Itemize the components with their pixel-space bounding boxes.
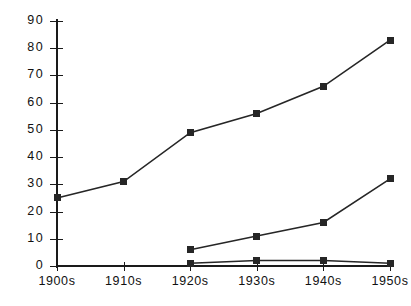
marker-series-3-1930s bbox=[253, 257, 260, 264]
marker-series-2-1950s bbox=[387, 175, 394, 182]
marker-series-3-1950s bbox=[387, 260, 394, 267]
marker-series-1-1940s bbox=[320, 83, 327, 90]
marker-series-2-1920s bbox=[187, 246, 194, 253]
marker-series-1-1920s bbox=[187, 129, 194, 136]
marker-series-3-1940s bbox=[320, 257, 327, 264]
figure-caption bbox=[22, 297, 394, 306]
data-lines bbox=[0, 0, 411, 306]
marker-series-3-1920s bbox=[187, 260, 194, 267]
marker-series-1-1950s bbox=[387, 37, 394, 44]
marker-series-1-1910s bbox=[120, 178, 127, 185]
marker-series-1-1930s bbox=[253, 110, 260, 117]
marker-series-1-1900s bbox=[54, 194, 61, 201]
marker-series-2-1940s bbox=[320, 219, 327, 226]
line-series-3 bbox=[190, 261, 390, 264]
line-series-1 bbox=[57, 40, 390, 198]
line-series-2 bbox=[190, 179, 390, 250]
line-chart: 0102030405060708090 1900s1910s1920s1930s… bbox=[0, 0, 411, 306]
marker-series-2-1930s bbox=[253, 233, 260, 240]
